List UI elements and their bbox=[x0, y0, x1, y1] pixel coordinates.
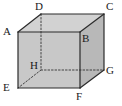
vertex-label-c: C bbox=[106, 1, 113, 12]
vertex-label-b: B bbox=[82, 33, 89, 44]
cuboid-figure: ABCDEFGH bbox=[0, 0, 122, 106]
vertex-label-f: F bbox=[76, 91, 82, 102]
vertex-label-d: D bbox=[35, 1, 43, 12]
vertex-label-a: A bbox=[3, 26, 11, 37]
vertex-label-e: E bbox=[3, 82, 10, 93]
vertex-label-h: H bbox=[30, 60, 38, 71]
faces-group bbox=[18, 14, 104, 88]
cuboid-svg bbox=[0, 0, 122, 106]
vertex-label-g: G bbox=[106, 65, 114, 76]
face-ABFE bbox=[18, 32, 80, 88]
